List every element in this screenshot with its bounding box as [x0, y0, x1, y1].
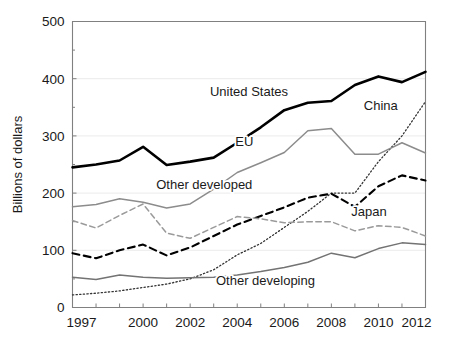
plot-frame: [73, 22, 426, 308]
x-tick-label-1997: 1997: [67, 315, 97, 330]
axis-ticks: [73, 22, 426, 308]
x-tick-label-2000: 2000: [128, 315, 158, 330]
chart-container: 0100200300400500 19972000200220042006200…: [0, 0, 456, 349]
y-axis-tick-labels: 0100200300400500: [42, 14, 65, 315]
axes-frame: [73, 22, 426, 308]
y-tick-label-300: 300: [42, 129, 65, 144]
y-tick-label-200: 200: [42, 186, 65, 201]
series-line-china: [73, 102, 426, 295]
y-tick-label-100: 100: [42, 243, 65, 258]
y-tick-label-500: 500: [42, 14, 65, 29]
x-tick-label-2008: 2008: [316, 315, 346, 330]
series-label-other-developing: Other developing: [216, 273, 315, 288]
x-tick-label-2012: 2012: [401, 315, 431, 330]
x-axis-tick-labels: 19972000200220042006200820102012: [67, 315, 432, 330]
x-tick-label-2004: 2004: [222, 315, 253, 330]
y-axis-title: Billions of dollars: [10, 115, 25, 213]
series-label-eu: EU: [235, 134, 253, 149]
series-label-japan: Japan: [351, 204, 386, 219]
series-label-other-developed: Other developed: [156, 177, 252, 192]
y-tick-label-0: 0: [57, 300, 65, 315]
x-tick-label-2010: 2010: [363, 315, 393, 330]
x-tick-label-2002: 2002: [175, 315, 205, 330]
y-tick-label-400: 400: [42, 72, 65, 87]
x-tick-label-2006: 2006: [269, 315, 299, 330]
line-chart: 0100200300400500 19972000200220042006200…: [0, 0, 456, 349]
series-label-china: China: [364, 98, 399, 113]
series-label-united-states: United States: [210, 84, 289, 99]
y-axis-title-text: Billions of dollars: [10, 115, 25, 213]
